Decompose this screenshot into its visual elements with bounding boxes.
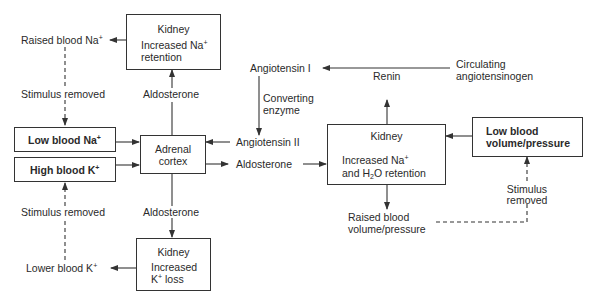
converting-enzyme-line1: Converting	[263, 92, 314, 104]
stimulus-removed-k-label: Stimulus removed	[21, 206, 105, 218]
low-blood-na-label: Low blood Na+	[28, 134, 101, 146]
adrenal-line2: cortex	[141, 155, 205, 167]
angiotensin-2-label: Angiotensin II	[236, 136, 300, 148]
raised-blood-na-label: Raised blood Na+	[21, 34, 103, 46]
kidney-bottom-title: Kidney	[137, 246, 210, 258]
stimulus-removed-vol-line2: removed	[502, 194, 552, 206]
raised-volume-line1: Raised blood	[348, 211, 409, 223]
kidney-bottom-k: K	[151, 273, 158, 285]
low-blood-volume-line2: volume/pressure	[486, 137, 570, 149]
kidney-right-line1-text: Increased Na	[342, 154, 404, 166]
superscript: +	[93, 262, 97, 269]
kidney-bottom-loss: loss	[162, 273, 184, 285]
lower-blood-k-label: Lower blood K+	[26, 262, 97, 274]
aldosterone-down-label: Aldosterone	[143, 206, 199, 218]
low-blood-na-text: Low blood Na	[28, 134, 97, 146]
kidney-top-line1: Increased Na+	[141, 39, 208, 51]
aldosterone-up-label: Aldosterone	[143, 88, 199, 100]
raised-volume-line2: volume/pressure	[348, 223, 426, 235]
kidney-bottom-box: Kidney Increased K+ loss	[136, 238, 211, 291]
angiotensinogen-line2: angiotensinogen	[456, 70, 533, 82]
high-blood-k-text: High blood K	[30, 164, 95, 176]
kidney-right-box: Kidney Increased Na+ and H2O retention	[327, 124, 446, 185]
kidney-right-line2: and H2O retention	[342, 167, 426, 179]
aldosterone-right-label: Aldosterone	[236, 158, 292, 170]
lower-blood-k-text: Lower blood K	[26, 262, 93, 274]
angiotensinogen-line1: Circulating	[456, 58, 506, 70]
high-blood-k-box: High blood K+	[14, 157, 116, 182]
kidney-right-line2-pre: and H	[342, 167, 370, 179]
adrenal-cortex-box: Adrenal cortex	[140, 135, 206, 174]
stimulus-removed-na-label: Stimulus removed	[21, 88, 105, 100]
superscript: +	[203, 39, 207, 46]
kidney-top-title: Kidney	[127, 23, 220, 35]
kidney-top-line2: retention	[141, 51, 182, 63]
high-blood-k-label: High blood K+	[30, 164, 99, 176]
kidney-top-box: Kidney Increased Na+ retention	[126, 14, 221, 70]
superscript: +	[404, 154, 408, 161]
low-blood-volume-line1: Low blood	[486, 125, 539, 137]
kidney-right-title: Kidney	[328, 130, 445, 142]
superscript: +	[99, 34, 103, 41]
low-blood-volume-box: Low blood volume/pressure	[472, 117, 583, 157]
renin-label: Renin	[373, 70, 400, 82]
raised-blood-na-text: Raised blood Na	[21, 34, 99, 46]
converting-enzyme-line2: enzyme	[263, 104, 300, 116]
kidney-right-line1: Increased Na+	[342, 154, 409, 166]
superscript: +	[97, 134, 101, 141]
low-blood-na-box: Low blood Na+	[14, 127, 116, 152]
kidney-right-line2-post: O retention	[374, 167, 426, 179]
kidney-top-line1-text: Increased Na	[141, 39, 203, 51]
kidney-bottom-line2: K+ loss	[151, 273, 184, 285]
angiotensin-1-label: Angiotensin I	[250, 62, 311, 74]
adrenal-line1: Adrenal	[141, 143, 205, 155]
superscript: +	[95, 164, 99, 171]
kidney-bottom-line1: Increased	[151, 261, 197, 273]
